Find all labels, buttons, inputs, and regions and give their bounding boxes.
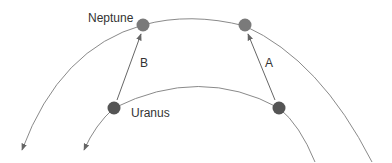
neptune-planet-right <box>239 19 252 32</box>
uranus-label: Uranus <box>131 106 170 120</box>
arrow-a-label: A <box>265 56 273 70</box>
orbit-diagram: Neptune Uranus B A <box>0 0 392 162</box>
neptune-orbit <box>22 19 372 162</box>
uranus-planet-left <box>108 102 121 115</box>
neptune-label: Neptune <box>88 11 134 25</box>
arrow-b <box>117 34 141 100</box>
uranus-planet-right <box>273 102 286 115</box>
arrow-b-label: B <box>140 56 148 70</box>
neptune-planet-left <box>137 19 150 32</box>
uranus-orbit <box>84 87 315 163</box>
